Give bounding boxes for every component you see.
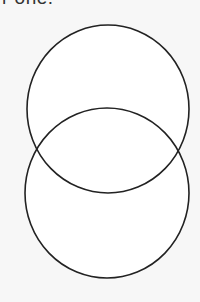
venn-diagram	[0, 0, 200, 302]
diagram-canvas: r one.	[0, 0, 200, 302]
